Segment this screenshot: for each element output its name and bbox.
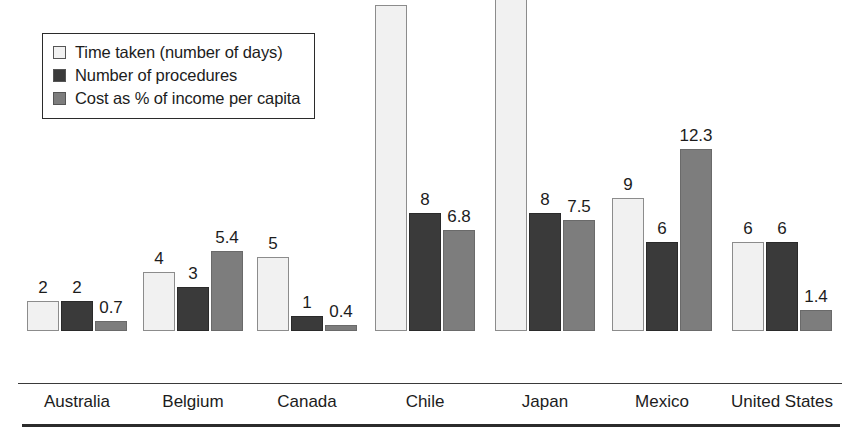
bar-value-label: 6 xyxy=(777,219,786,239)
bar-value-label: 2 xyxy=(38,278,47,298)
chart-legend: Time taken (number of days) Number of pr… xyxy=(42,33,315,119)
bar-column: 7.5 xyxy=(563,220,595,331)
category-label: Canada xyxy=(277,392,337,412)
bar-value-label: 6 xyxy=(657,219,666,239)
legend-label-procedures: Number of procedures xyxy=(75,66,237,85)
legend-item-procedures: Number of procedures xyxy=(53,64,300,87)
bar xyxy=(291,316,323,331)
bar-group: 510.4 xyxy=(255,257,359,331)
bar-value-label: 4 xyxy=(154,249,163,269)
bar-group: 435.4 xyxy=(141,251,245,331)
bar xyxy=(143,272,175,331)
bar xyxy=(646,242,678,331)
legend-swatch-time-taken xyxy=(53,46,66,59)
bar-value-label: 3 xyxy=(188,264,197,284)
bar-column: 6.8 xyxy=(443,230,475,331)
bar-column: 6 xyxy=(732,242,764,331)
bar xyxy=(325,325,357,331)
bar-value-label: 9 xyxy=(623,175,632,195)
bar-column: 22 xyxy=(375,5,407,331)
category-label: Mexico xyxy=(635,392,689,412)
bar-column: 5.4 xyxy=(211,251,243,331)
bar xyxy=(95,321,127,331)
bar xyxy=(800,310,832,331)
bar-group: 661.4 xyxy=(730,242,834,331)
legend-swatch-cost xyxy=(53,92,66,105)
bottom-divider-rule xyxy=(22,424,840,427)
legend-item-time-taken: Time taken (number of days) xyxy=(53,41,300,64)
bar xyxy=(211,251,243,331)
bar-value-label: 6.8 xyxy=(447,207,471,227)
bar-column: 1 xyxy=(291,316,323,331)
category-label: Belgium xyxy=(162,392,223,412)
bar-value-label: 2 xyxy=(72,278,81,298)
bar-value-label: 0.7 xyxy=(99,298,123,318)
legend-item-cost: Cost as % of income per capita xyxy=(53,87,300,110)
bar-value-label: 8 xyxy=(420,190,429,210)
bar xyxy=(612,198,644,331)
bar-chart-figure: Time taken (number of days) Number of pr… xyxy=(0,0,860,436)
category-label: United States xyxy=(731,392,833,412)
bar-group: 220.7 xyxy=(25,301,129,331)
bar xyxy=(27,301,59,331)
bar xyxy=(766,242,798,331)
bar xyxy=(732,242,764,331)
bar-column: 1.4 xyxy=(800,310,832,331)
bar xyxy=(257,257,289,331)
bar-column: 3 xyxy=(177,287,209,331)
bar-value-label: 1 xyxy=(302,293,311,313)
bar-value-label: 5.4 xyxy=(215,228,239,248)
bar-column: 8 xyxy=(529,213,561,331)
bar-value-label: 5 xyxy=(268,234,277,254)
bar-value-label: 22 xyxy=(382,0,401,2)
bar-column: 0.7 xyxy=(95,321,127,331)
bar xyxy=(61,301,93,331)
legend-label-cost: Cost as % of income per capita xyxy=(75,89,300,108)
category-label: Chile xyxy=(406,392,445,412)
bar xyxy=(443,230,475,331)
bar-column: 9 xyxy=(612,198,644,331)
bar xyxy=(375,5,407,331)
bar-value-label: 1.4 xyxy=(804,287,828,307)
category-label: Japan xyxy=(522,392,568,412)
x-axis-baseline xyxy=(18,383,842,384)
legend-label-time-taken: Time taken (number of days) xyxy=(75,43,283,62)
bar-column: 2 xyxy=(27,301,59,331)
bar xyxy=(529,213,561,331)
bar-group: 2286.8 xyxy=(373,5,477,331)
bar-group: 2387.5 xyxy=(493,0,597,331)
bar-group: 9612.3 xyxy=(610,149,714,331)
bar-column: 2 xyxy=(61,301,93,331)
bar xyxy=(563,220,595,331)
bar-column: 12.3 xyxy=(680,149,712,331)
bar-value-label: 6 xyxy=(743,219,752,239)
bar-column: 5 xyxy=(257,257,289,331)
bar-column: 0.4 xyxy=(325,325,357,331)
bar-column: 23 xyxy=(495,0,527,331)
legend-swatch-procedures xyxy=(53,69,66,82)
bar-column: 6 xyxy=(766,242,798,331)
bar xyxy=(495,0,527,331)
bar-value-label: 7.5 xyxy=(567,197,591,217)
bar-value-label: 8 xyxy=(540,190,549,210)
bar-column: 4 xyxy=(143,272,175,331)
bar-column: 8 xyxy=(409,213,441,331)
bar xyxy=(680,149,712,331)
bar-column: 6 xyxy=(646,242,678,331)
category-label: Australia xyxy=(44,392,110,412)
bar-value-label: 12.3 xyxy=(679,126,712,146)
bar xyxy=(177,287,209,331)
bar xyxy=(409,213,441,331)
bar-value-label: 0.4 xyxy=(329,302,353,322)
